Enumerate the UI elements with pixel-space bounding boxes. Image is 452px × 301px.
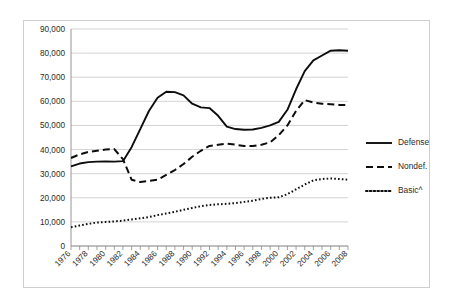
x-axis-labels-group: 1976197819801982198419861988199019921994… xyxy=(53,249,350,269)
gridlines-group xyxy=(71,29,348,246)
data-series-group xyxy=(71,50,348,227)
x-axis-tick-label: 1990 xyxy=(174,249,194,269)
series-line-defense xyxy=(71,50,348,166)
y-axis-tick-label: 70,000 xyxy=(40,73,65,82)
y-axis-tick-label: 30,000 xyxy=(40,170,65,179)
y-axis-tick-label: 10,000 xyxy=(40,218,65,227)
y-axis-tick-label: 40,000 xyxy=(40,146,65,155)
y-axis-tick-label: 60,000 xyxy=(40,97,65,106)
x-axis-tick-label: 1988 xyxy=(157,249,177,269)
x-axis-tick-label: 1992 xyxy=(192,249,212,269)
x-axis-tick-label: 1978 xyxy=(70,249,90,269)
x-axis-tick-label: 2004 xyxy=(296,249,316,269)
tickmarks-group xyxy=(71,246,348,250)
chart-legend: DefenseNondef.Basic^ xyxy=(366,137,429,195)
legend-label: Defense xyxy=(398,137,429,147)
x-axis-tick-label: 1980 xyxy=(88,249,108,269)
x-axis-tick-label: 1976 xyxy=(53,249,73,269)
x-axis-tick-label: 2002 xyxy=(278,249,298,269)
x-axis-tick-label: 2008 xyxy=(330,249,350,269)
line-chart: 010,00020,00030,00040,00050,00060,00070,… xyxy=(24,21,429,287)
series-line-basic xyxy=(71,178,348,227)
x-axis-tick-label: 1984 xyxy=(122,249,142,269)
x-axis-tick-label: 1996 xyxy=(226,249,246,269)
y-axis-tick-label: 50,000 xyxy=(40,121,65,130)
x-axis-tick-label: 1982 xyxy=(105,249,125,269)
x-axis-tick-label: 1998 xyxy=(244,249,264,269)
series-line-nondef xyxy=(71,100,348,182)
x-axis-tick-label: 2006 xyxy=(313,249,333,269)
y-axis-tick-label: 20,000 xyxy=(40,194,65,203)
legend-label: Basic^ xyxy=(398,185,422,195)
x-axis-tick-label: 1994 xyxy=(209,249,229,269)
y-axis-tick-label: 80,000 xyxy=(40,49,65,58)
x-axis-tick-label: 2000 xyxy=(261,249,281,269)
y-axis-labels-group: 010,00020,00030,00040,00050,00060,00070,… xyxy=(40,25,65,251)
y-axis-tick-label: 90,000 xyxy=(40,25,65,34)
axis-lines-group xyxy=(71,29,348,246)
x-axis-tick-label: 1986 xyxy=(140,249,160,269)
chart-figure: 010,00020,00030,00040,00050,00060,00070,… xyxy=(23,20,430,288)
legend-label: Nondef. xyxy=(398,161,427,171)
